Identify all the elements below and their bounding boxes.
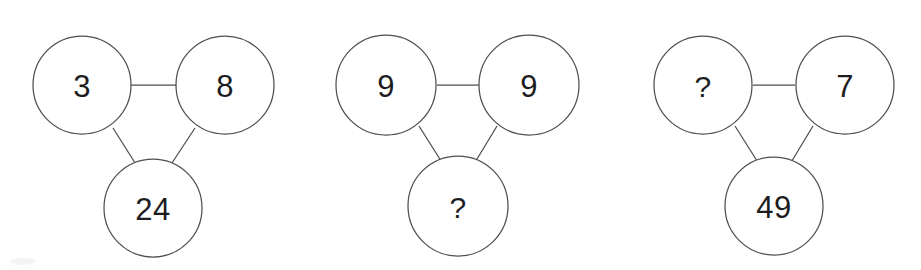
puzzle-diagram-2: 9 9 ? bbox=[307, 0, 614, 270]
node-bottom-label: 49 bbox=[756, 190, 791, 225]
scan-artifact bbox=[10, 258, 36, 265]
edge-top-right-to-bottom bbox=[790, 126, 813, 164]
node-bottom-label: 24 bbox=[135, 192, 170, 227]
puzzle-diagram-3: ? 7 49 bbox=[614, 0, 921, 270]
puzzle-group-1: 3 8 24 bbox=[0, 0, 307, 270]
puzzle-diagram-1: 3 8 24 bbox=[0, 0, 307, 270]
node-top-left-label: ? bbox=[694, 70, 711, 103]
edge-top-left-to-bottom bbox=[419, 126, 443, 164]
node-top-left-label: 9 bbox=[377, 69, 395, 104]
node-top-right-label: 7 bbox=[836, 69, 854, 104]
puzzle-group-2: 9 9 ? bbox=[307, 0, 614, 270]
edge-top-right-to-bottom bbox=[474, 126, 497, 164]
edge-top-left-to-bottom bbox=[113, 128, 137, 166]
puzzle-group-3: ? 7 49 bbox=[614, 0, 921, 270]
node-top-right-label: 9 bbox=[520, 69, 538, 104]
node-top-left-label: 3 bbox=[73, 69, 91, 104]
puzzle-board: 3 8 24 9 9 ? ? 7 49 bbox=[0, 0, 921, 270]
edge-top-right-to-bottom bbox=[170, 128, 195, 166]
node-bottom-label: ? bbox=[449, 191, 466, 224]
node-top-right-label: 8 bbox=[216, 69, 234, 104]
edge-top-left-to-bottom bbox=[735, 126, 759, 164]
